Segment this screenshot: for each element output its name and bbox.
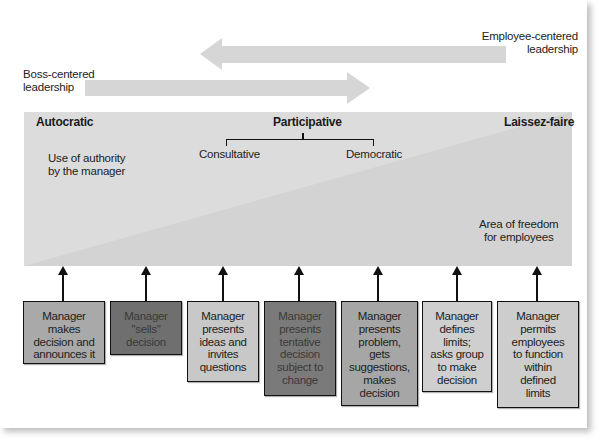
participative-label: Participative	[273, 116, 342, 129]
behavior-box-tells: Manager makes decision and announces it	[23, 301, 105, 364]
behavior-box-tentative-decision: Manager presents tentative decision subj…	[264, 301, 336, 396]
bracket-stem	[302, 133, 304, 139]
behavior-box-presents-ideas: Manager presents ideas and invites quest…	[187, 301, 259, 382]
behavior-box-sells: Manager "sells" decision	[110, 301, 182, 355]
consultative-label: Consultative	[199, 148, 260, 161]
behavior-box-permits-function: Manager permits employees to function wi…	[497, 301, 579, 408]
boss-centered-label: Boss-centered leadership	[23, 68, 95, 94]
boss-centered-arrow	[85, 72, 370, 104]
freedom-label: Area of freedom for employees	[479, 218, 558, 244]
participative-bracket	[226, 139, 374, 146]
autocratic-label: Autocratic	[36, 116, 93, 129]
behavior-box-defines-limits: Manager defines limits; asks group to ma…	[422, 301, 492, 392]
laissez-faire-label: Laissez-faire	[504, 116, 574, 129]
employee-centered-arrow	[200, 36, 506, 72]
behavior-box-presents-problem: Manager presents problem, gets suggestio…	[341, 301, 418, 406]
employee-centered-label: Employee-centered leadership	[470, 30, 578, 56]
democratic-label: Democratic	[346, 148, 402, 161]
authority-label: Use of authority by the manager	[48, 152, 125, 178]
